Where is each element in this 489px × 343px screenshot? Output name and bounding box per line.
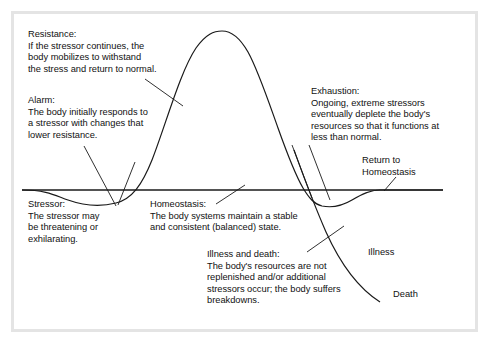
- label-illness: Illness: [368, 247, 394, 259]
- leader-line-alarm: [84, 146, 116, 206]
- diagram-canvas: Resistance: If the stressor continues, t…: [0, 0, 489, 343]
- note-stressor: Stressor: The stressor may be threatenin…: [28, 199, 100, 245]
- note-resistance: Resistance: If the stressor continues, t…: [28, 29, 157, 75]
- leader-line-return-homeostasis: [384, 177, 396, 191]
- leader-line-resistance: [145, 79, 183, 106]
- label-return-to-homeostasis: Return to Homeostasis: [362, 155, 416, 178]
- leader-line-exhaustion-b: [309, 145, 330, 200]
- note-homeostasis: Homeostasis: The body systems maintain a…: [150, 199, 298, 234]
- label-death: Death: [393, 289, 418, 301]
- note-exhaustion: Exhaustion: Ongoing, extreme stressors e…: [311, 86, 439, 144]
- note-illness-and-death: Illness and death: The body's resources …: [207, 249, 341, 307]
- note-alarm: Alarm: The body initially responds to a …: [28, 95, 148, 141]
